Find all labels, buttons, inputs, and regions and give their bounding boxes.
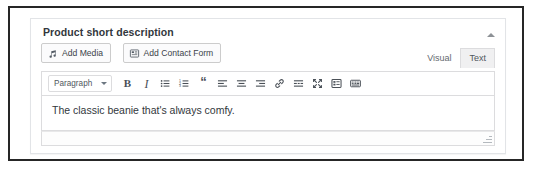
editor-statusbar [41,131,495,146]
add-media-label: Add Media [62,44,103,62]
editor-body-text: The classic beanie that's always comfy. [52,103,484,117]
editor-mode-tabs: Visual Text [418,48,495,68]
page-title: Product short description [43,25,495,39]
numbered-list-button[interactable]: 1 2 3 [175,74,194,93]
toolbar-toggle-button[interactable] [327,74,346,93]
add-contact-form-button[interactable]: Add Contact Form [123,43,222,63]
keyboard-icon [349,77,362,90]
align-left-icon [216,77,229,90]
format-select-value: Paragraph [54,79,92,88]
add-media-button[interactable]: Add Media [41,43,111,63]
svg-text:3: 3 [179,84,181,88]
chevron-down-icon [101,82,107,85]
editor-toolbar: Paragraph B I [41,71,495,96]
toolbar-toggle-icon [330,77,343,90]
fullscreen-icon [311,77,324,90]
editor-content-area[interactable]: The classic beanie that's always comfy. [41,96,495,131]
align-right-icon [254,77,267,90]
add-contact-form-label: Add Contact Form [144,44,214,62]
media-buttons-row: Add Media Add Contact Form [41,43,495,67]
align-center-icon [235,77,248,90]
bold-button[interactable]: B [118,74,137,93]
blockquote-icon: “ [200,75,207,88]
screenshot-frame: Product short description Add Media [8,6,524,161]
align-right-button[interactable] [251,74,270,93]
align-left-button[interactable] [213,74,232,93]
product-short-description-metabox: Product short description Add Media [30,18,506,154]
read-more-icon [292,77,305,90]
bullet-list-button[interactable] [156,74,175,93]
blockquote-button[interactable]: “ [194,72,213,95]
triangle-up-icon[interactable] [485,28,497,40]
ordered-list-icon: 1 2 3 [178,77,191,90]
tab-text[interactable]: Text [460,48,495,68]
read-more-button[interactable] [289,74,308,93]
keyboard-shortcuts-button[interactable] [346,74,365,93]
editor-wrap: Add Media Add Contact Form [41,43,495,146]
bold-icon: B [124,78,131,89]
contact-form-icon [129,48,140,59]
tab-visual[interactable]: Visual [418,48,460,68]
metabox-header: Product short description [31,19,505,43]
italic-icon: I [145,78,149,90]
format-select[interactable]: Paragraph [48,75,112,92]
insert-link-button[interactable] [270,74,289,93]
italic-button[interactable]: I [137,74,156,93]
resize-handle-icon[interactable] [483,134,492,143]
unordered-list-icon [159,77,172,90]
align-center-button[interactable] [232,74,251,93]
distraction-free-button[interactable] [308,74,327,93]
link-icon [273,77,286,90]
insert-media-icon [47,48,58,59]
